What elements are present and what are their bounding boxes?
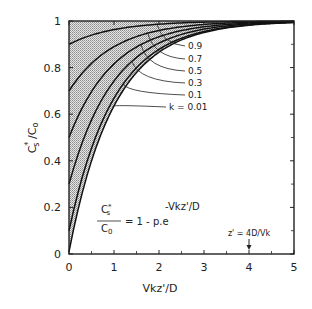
y-tick-label: 0.2 xyxy=(44,201,62,214)
y-axis-title: C*s /Co xyxy=(24,123,41,154)
y-tick-label: 0.6 xyxy=(44,108,62,121)
svg-text:C*s /Co: C*s /Co xyxy=(24,123,41,154)
curve-label: 0.9 xyxy=(188,41,203,51)
svg-text:C0: C0 xyxy=(101,223,112,236)
svg-text:-Vkz'/D: -Vkz'/D xyxy=(165,201,200,212)
annotation-z-prime: z' = 4D/Vk xyxy=(228,229,271,250)
y-tick-label: 0 xyxy=(54,248,61,261)
curve-labels: 0.90.70.50.30.1k = 0.01 xyxy=(169,41,208,112)
curve-label: 0.1 xyxy=(188,90,202,100)
curve-label: k = 0.01 xyxy=(169,102,208,112)
curve-label: 0.7 xyxy=(188,54,202,64)
curve-label: 0.5 xyxy=(188,66,202,76)
curve-label: 0.3 xyxy=(188,78,202,88)
svg-text:z' = 4D/Vk: z' = 4D/Vk xyxy=(228,229,271,238)
equation: C*s C0 = 1 - p.e -Vkz'/D xyxy=(97,201,200,236)
svg-text:C*s: C*s xyxy=(101,203,112,217)
x-tick-label: 0 xyxy=(66,261,73,274)
chart: 012345 00.20.40.60.81 0.90.70.50.30.1k =… xyxy=(0,0,312,309)
y-tick-label: 1 xyxy=(54,15,61,28)
x-axis-title: Vkz'/D xyxy=(143,282,178,295)
x-tick-label: 3 xyxy=(201,261,208,274)
x-tick-label: 2 xyxy=(156,261,163,274)
x-tick-label: 4 xyxy=(246,261,253,274)
y-tick-label: 0.4 xyxy=(44,155,62,168)
shaded-region xyxy=(69,21,294,252)
svg-text:= 1 - p.e: = 1 - p.e xyxy=(125,216,169,227)
x-tick-label: 1 xyxy=(111,261,118,274)
x-tick-label: 5 xyxy=(291,261,298,274)
y-tick-label: 0.8 xyxy=(44,62,62,75)
